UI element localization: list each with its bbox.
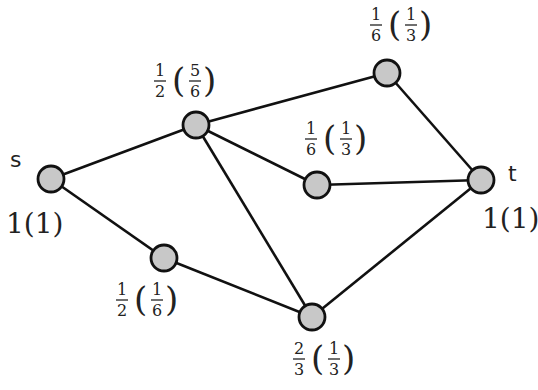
edge-e-t bbox=[312, 180, 481, 317]
node-e bbox=[299, 304, 325, 330]
node-c bbox=[304, 172, 330, 198]
paren-num: 1 bbox=[406, 5, 416, 24]
right-paren: ) bbox=[419, 4, 432, 44]
frac-den: 2 bbox=[155, 82, 165, 101]
node-b bbox=[374, 60, 400, 86]
frac-num: 2 bbox=[294, 339, 304, 358]
node-s bbox=[38, 166, 64, 192]
paren-num: 1 bbox=[341, 119, 351, 138]
sink-value-label: 1(1) bbox=[482, 202, 538, 235]
frac-num: 1 bbox=[306, 119, 316, 138]
left-paren: ( bbox=[311, 338, 324, 378]
frac-den: 2 bbox=[117, 301, 127, 320]
node-d-label: 1 2 ( 1 6 ) bbox=[116, 279, 178, 320]
left-paren: ( bbox=[134, 279, 147, 319]
node-e-label: 2 3 ( 1 3 ) bbox=[293, 338, 355, 379]
source-value-label: 1(1) bbox=[6, 207, 63, 240]
left-paren: ( bbox=[172, 60, 185, 100]
node-d bbox=[151, 245, 177, 271]
edge-s-d bbox=[51, 179, 164, 258]
edges bbox=[51, 73, 481, 317]
right-paren: ) bbox=[342, 338, 355, 378]
edge-s-a bbox=[51, 125, 196, 179]
paren-den: 3 bbox=[341, 140, 351, 159]
frac-num: 1 bbox=[371, 5, 381, 24]
right-paren: ) bbox=[354, 118, 367, 158]
left-paren: ( bbox=[323, 118, 336, 158]
paren-num: 1 bbox=[152, 280, 162, 299]
paren-num: 5 bbox=[190, 61, 200, 80]
paren-den: 3 bbox=[329, 360, 339, 379]
edge-b-t bbox=[387, 73, 481, 180]
frac-den: 6 bbox=[371, 26, 381, 45]
nodes bbox=[38, 60, 494, 330]
diagram-canvas: s 1(1) t 1(1) 1 2 ( 5 6 ) 1 6 ( 1 3 ) 1 bbox=[0, 0, 538, 390]
right-paren: ) bbox=[165, 279, 178, 319]
node-b-label: 1 6 ( 1 3 ) bbox=[370, 4, 432, 45]
paren-den: 6 bbox=[152, 301, 162, 320]
source-name-label: s bbox=[10, 147, 21, 172]
node-a bbox=[183, 112, 209, 138]
frac-num: 1 bbox=[117, 280, 127, 299]
frac-den: 3 bbox=[294, 360, 304, 379]
paren-den: 3 bbox=[406, 26, 416, 45]
paren-num: 1 bbox=[329, 339, 339, 358]
edge-c-t bbox=[317, 180, 481, 185]
right-paren: ) bbox=[203, 60, 216, 100]
flow-network-diagram: s 1(1) t 1(1) 1 2 ( 5 6 ) 1 6 ( 1 3 ) 1 bbox=[0, 0, 538, 390]
frac-num: 1 bbox=[155, 61, 165, 80]
paren-den: 6 bbox=[190, 82, 200, 101]
frac-den: 6 bbox=[306, 140, 316, 159]
node-t bbox=[468, 167, 494, 193]
sink-name-label: t bbox=[508, 161, 517, 186]
node-c-label: 1 6 ( 1 3 ) bbox=[305, 118, 367, 159]
node-a-label: 1 2 ( 5 6 ) bbox=[154, 60, 216, 101]
edge-d-e bbox=[164, 258, 312, 317]
left-paren: ( bbox=[388, 4, 401, 44]
